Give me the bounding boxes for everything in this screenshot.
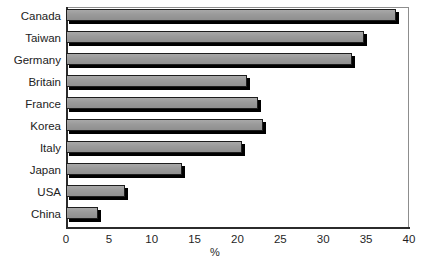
x-tick-label: 15 [175,232,215,246]
bar [66,75,247,87]
x-tick-label: 35 [346,232,386,246]
bar [66,9,396,21]
category-label: Canada [0,9,66,23]
bar [66,31,364,43]
x-axis-title: % [0,246,430,258]
bar [66,185,125,197]
bar [66,97,258,109]
category-label: Korea [0,119,66,133]
x-tick-label: 10 [132,232,172,246]
category-label: USA [0,185,66,199]
x-tick-label: 20 [218,232,258,246]
bar [66,141,242,153]
category-label: Italy [0,141,66,155]
x-axis-line [66,227,410,229]
bar [66,119,263,131]
x-tick-label: 30 [303,232,343,246]
bar [66,163,182,175]
category-label: Taiwan [0,31,66,45]
category-label: Germany [0,53,66,67]
category-label: Britain [0,75,66,89]
x-tick-label: 5 [89,232,129,246]
category-label: France [0,97,66,111]
category-label: Japan [0,163,66,177]
x-tick-label: 0 [46,232,86,246]
x-tick-label: 25 [260,232,300,246]
bar-chart: CanadaTaiwanGermanyBritainFranceKoreaIta… [0,0,430,272]
x-tick-label: 40 [389,232,429,246]
bar [66,207,98,219]
category-label: China [0,207,66,221]
bar [66,53,352,65]
